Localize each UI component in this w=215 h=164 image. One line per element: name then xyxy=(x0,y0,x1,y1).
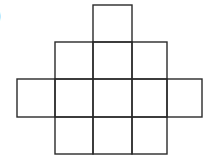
cell-r2-c3 xyxy=(132,79,167,117)
cell-r3-c3 xyxy=(132,117,167,154)
cell-r3-c1 xyxy=(55,117,93,154)
cell-r2-c1 xyxy=(55,79,93,117)
cell-r0-c2 xyxy=(93,5,132,42)
cell-r1-c1 xyxy=(55,42,93,79)
cell-r2-c4 xyxy=(167,79,202,117)
cell-r2-c0 xyxy=(17,79,55,117)
cell-r1-c3 xyxy=(132,42,167,79)
cell-r2-c2 xyxy=(93,79,132,117)
cell-r3-c2 xyxy=(93,117,132,154)
square-grid-diagram xyxy=(0,0,215,164)
cell-r1-c2 xyxy=(93,42,132,79)
